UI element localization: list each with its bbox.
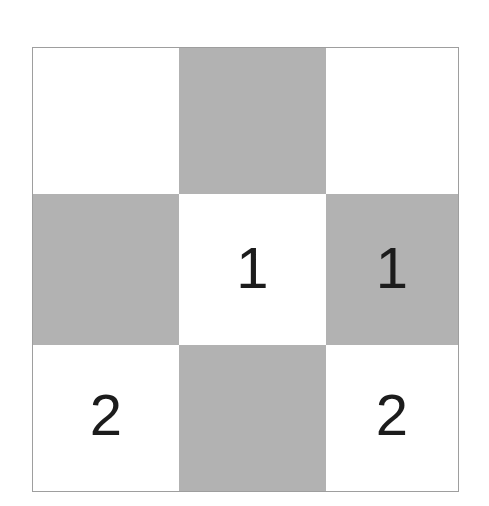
cut-off-title-sliver [0,0,489,9]
checkerboard-grid: 1 1 2 2 [33,48,458,491]
grid-cell-r3c1[interactable]: 2 [33,345,179,491]
grid-cell-r2c3[interactable]: 1 [326,194,458,345]
checkerboard-figure: 1 1 2 2 [32,47,459,492]
cell-label-r2c3: 1 [326,239,458,297]
cell-label-r2c2: 1 [179,239,326,297]
grid-cell-r1c2[interactable] [179,48,326,194]
cell-label-r3c3: 2 [326,386,458,444]
grid-cell-r1c3[interactable] [326,48,458,194]
grid-cell-r1c1[interactable] [33,48,179,194]
grid-cell-r2c2[interactable]: 1 [179,194,326,345]
grid-cell-r3c3[interactable]: 2 [326,345,458,491]
cell-label-r3c1: 2 [33,386,179,444]
grid-cell-r3c2[interactable] [179,345,326,491]
grid-cell-r2c1[interactable] [33,194,179,345]
